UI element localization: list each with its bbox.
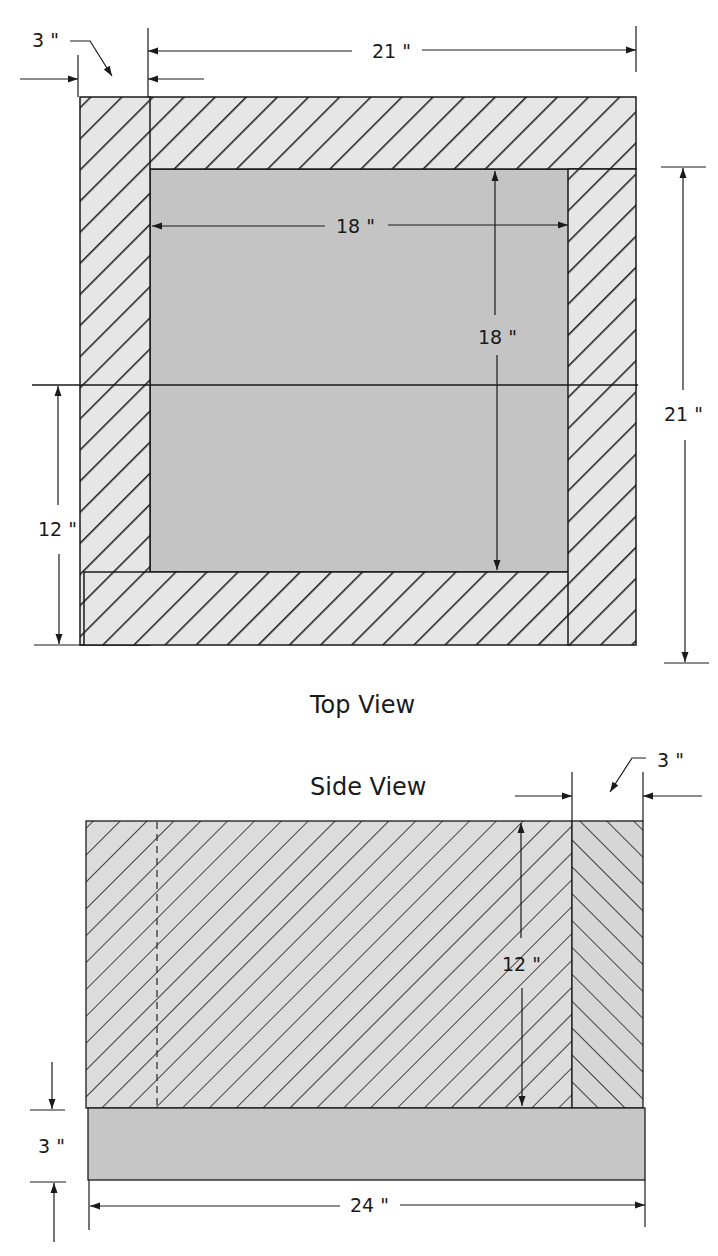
side-view-end-cap [572,821,643,1108]
top-view-title: Top View [309,691,415,719]
dim-label-end-thickness: 3 " [657,749,684,771]
leader-arrow [70,41,112,76]
leader-arrow [610,758,646,792]
top-view-wall-right [568,169,636,645]
top-view-wall-top [148,97,636,169]
drawing-canvas: 3 " 21 " 18 " 18 " 21 " 12 " Top View Si… [0,0,718,1256]
side-view-title: Side View [310,773,426,801]
dim-label-inner-width: 18 " [336,215,375,237]
top-view-wall-bottom [84,572,570,645]
dim-label-outer-depth: 21 " [664,403,703,425]
dim-label-base-thickness: 3 " [38,1135,65,1157]
side-view-wall [86,821,572,1108]
side-view: Side View 3 " 12 " 3 " 24 " [30,749,702,1242]
top-view-wall-left [80,97,150,645]
dim-label-overall-length: 24 " [350,1194,389,1216]
dim-label-wall-thickness: 3 " [32,29,59,51]
dim-label-partial-height: 12 " [38,518,77,540]
dim-label-inner-depth: 18 " [478,326,517,348]
top-view: 3 " 21 " 18 " 18 " 21 " 12 " Top View [20,26,709,719]
dim-label-wall-height: 12 " [502,953,541,975]
dim-label-outer-width: 21 " [372,40,411,62]
side-view-base [88,1108,645,1180]
